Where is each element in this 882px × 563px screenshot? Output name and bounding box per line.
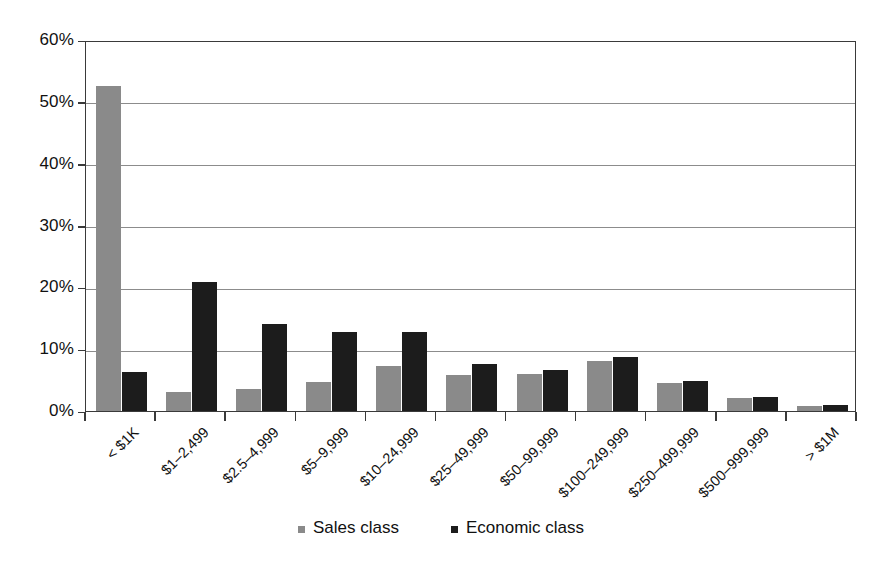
bar-group bbox=[86, 42, 156, 411]
bar-economic-class bbox=[122, 372, 147, 411]
bar-sales-class bbox=[306, 382, 331, 411]
legend-item-economic-class[interactable]: Economic class bbox=[451, 518, 584, 538]
bar-economic-class bbox=[823, 405, 848, 411]
x-axis-tick-mark bbox=[295, 412, 297, 421]
x-axis-tick-label: < $1K bbox=[103, 424, 141, 462]
x-axis-tick-mark bbox=[645, 412, 647, 421]
x-axis-tick-label: > $1M bbox=[802, 424, 842, 464]
bar-economic-class bbox=[472, 364, 497, 411]
x-axis-tick-label: $5–9,999 bbox=[298, 424, 352, 478]
y-axis-tick-label: 50% bbox=[0, 92, 74, 112]
x-axis-tick-mark bbox=[575, 412, 577, 421]
x-axis-tick-label: $25–49,999 bbox=[426, 424, 491, 489]
bar-group bbox=[787, 42, 857, 411]
x-axis-tick-mark bbox=[505, 412, 507, 421]
bar-group bbox=[156, 42, 226, 411]
bar-group bbox=[226, 42, 296, 411]
bar-economic-class bbox=[613, 357, 638, 411]
bar-group bbox=[577, 42, 647, 411]
bar-economic-class bbox=[753, 397, 778, 411]
chart-legend: Sales classEconomic class bbox=[0, 518, 882, 538]
x-axis-tick-mark bbox=[715, 412, 717, 421]
y-axis-tick-mark bbox=[78, 226, 85, 228]
bar-sales-class bbox=[797, 406, 822, 411]
bar-sales-class bbox=[166, 392, 191, 411]
bar-sales-class bbox=[517, 374, 542, 411]
y-axis-tick-label: 0% bbox=[0, 401, 74, 421]
y-axis-tick-label: 20% bbox=[0, 277, 74, 297]
y-axis-tick-mark bbox=[78, 41, 85, 43]
x-axis-tick-mark bbox=[84, 412, 86, 421]
x-axis-tick-label: $2.5–4,999 bbox=[219, 424, 282, 487]
y-axis-tick-mark bbox=[78, 288, 85, 290]
y-axis-tick-mark bbox=[78, 102, 85, 104]
bar-economic-class bbox=[402, 332, 427, 411]
bar-group bbox=[436, 42, 506, 411]
legend-swatch-icon bbox=[298, 526, 305, 533]
x-axis-tick-mark bbox=[224, 412, 226, 421]
bar-sales-class bbox=[96, 86, 121, 411]
x-axis-tick-mark bbox=[154, 412, 156, 421]
plot-area bbox=[85, 41, 856, 412]
bar-sales-class bbox=[657, 383, 682, 411]
legend-label: Sales class bbox=[313, 518, 399, 538]
bar-group bbox=[366, 42, 436, 411]
bar-group bbox=[717, 42, 787, 411]
legend-item-sales-class[interactable]: Sales class bbox=[298, 518, 399, 538]
bar-group bbox=[647, 42, 717, 411]
x-axis-tick-label: $1–2,499 bbox=[157, 424, 211, 478]
legend-swatch-icon bbox=[451, 526, 458, 533]
y-axis-tick-label: 10% bbox=[0, 339, 74, 359]
x-axis-tick-label: $100–249,999 bbox=[555, 424, 632, 501]
x-axis-tick-mark bbox=[785, 412, 787, 421]
x-axis-tick-label: $50–99,999 bbox=[496, 424, 561, 489]
bar-economic-class bbox=[683, 381, 708, 411]
x-axis-tick-mark bbox=[365, 412, 367, 421]
x-axis-tick-mark bbox=[435, 412, 437, 421]
y-axis-tick-label: 40% bbox=[0, 154, 74, 174]
y-axis-tick-label: 60% bbox=[0, 30, 74, 50]
x-axis-tick-mark bbox=[855, 412, 857, 421]
bar-chart: 0%10%20%30%40%50%60% < $1K$1–2,499$2.5–4… bbox=[0, 0, 882, 563]
bar-economic-class bbox=[192, 282, 217, 411]
bar-economic-class bbox=[543, 370, 568, 411]
legend-label: Economic class bbox=[466, 518, 584, 538]
bar-sales-class bbox=[376, 366, 401, 411]
bar-sales-class bbox=[587, 361, 612, 411]
bar-economic-class bbox=[262, 324, 287, 411]
x-axis-tick-label: $10–24,999 bbox=[356, 424, 421, 489]
bar-group bbox=[507, 42, 577, 411]
bar-group bbox=[296, 42, 366, 411]
x-axis-tick-label: $500–999,999 bbox=[695, 424, 772, 501]
y-axis-tick-label: 30% bbox=[0, 216, 74, 236]
bar-sales-class bbox=[446, 375, 471, 411]
bar-sales-class bbox=[236, 389, 261, 411]
bar-economic-class bbox=[332, 332, 357, 411]
bar-sales-class bbox=[727, 398, 752, 411]
y-axis-tick-mark bbox=[78, 350, 85, 352]
x-axis-tick-label: $250–499,999 bbox=[625, 424, 702, 501]
y-axis-tick-mark bbox=[78, 164, 85, 166]
